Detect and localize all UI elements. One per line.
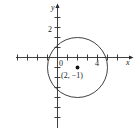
y-axis-label: y <box>51 4 55 12</box>
y-axis-arrowhead <box>55 4 59 9</box>
circle-graph-figure: y x 2 0 4 (2, −1) <box>0 0 135 132</box>
coordinate-plane-svg <box>0 0 135 132</box>
x-tick-label-4: 4 <box>95 60 99 68</box>
center-point-marker <box>76 66 80 70</box>
origin-tick-label: 0 <box>59 60 63 68</box>
y-tick-label-2: 2 <box>48 26 52 34</box>
center-point-label: (2, −1) <box>61 72 83 80</box>
x-axis-label: x <box>126 59 130 67</box>
